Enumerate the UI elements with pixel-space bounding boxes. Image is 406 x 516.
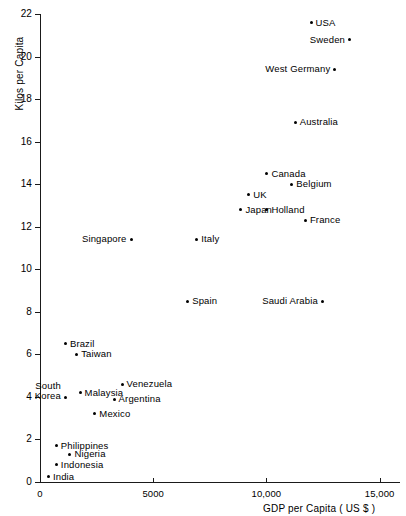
data-point-label: Saudi Arabia [262, 296, 318, 306]
data-point-marker [93, 412, 96, 415]
y-tick-label: 10 [21, 264, 32, 274]
y-tick-mark [35, 312, 40, 313]
data-point-marker [348, 38, 351, 41]
data-point: Canada [265, 169, 305, 179]
y-tick-label: 14 [21, 179, 32, 189]
y-tick-label: 12 [21, 222, 32, 232]
data-point: SouthKorea [0, 381, 67, 401]
data-point-label: Sweden [310, 35, 345, 45]
data-point: Nigeria [68, 449, 105, 459]
y-tick-mark [35, 57, 40, 58]
data-point-label: Brazil [70, 339, 95, 349]
data-point-label: Holland [271, 205, 304, 215]
x-tick-mark [153, 478, 154, 483]
data-point: Italy [195, 234, 219, 244]
data-point: Mexico [93, 409, 130, 419]
data-point: Indonesia [55, 460, 104, 470]
data-point-marker [55, 444, 58, 447]
data-point-marker [239, 208, 242, 211]
data-point-marker [64, 342, 67, 345]
data-point: Singapore [0, 234, 133, 244]
data-point-marker [75, 353, 78, 356]
data-point: West Germany [0, 64, 336, 74]
data-point-marker [290, 183, 293, 186]
data-point-label: West Germany [265, 64, 330, 74]
data-point-marker [310, 21, 313, 24]
x-tick-mark [266, 478, 267, 483]
data-point: India [47, 472, 74, 482]
data-point-marker [265, 172, 268, 175]
data-point: Saudi Arabia [0, 296, 324, 306]
x-tick-mark [40, 478, 41, 483]
data-point-label: Spain [192, 296, 217, 306]
y-tick-mark [35, 354, 40, 355]
data-point-marker [186, 300, 189, 303]
data-point: Argentina [113, 394, 161, 404]
data-point-label: Taiwan [81, 349, 111, 359]
data-point: Spain [186, 296, 217, 306]
data-point-marker [333, 68, 336, 71]
data-point: France [304, 215, 340, 225]
data-point-marker [68, 453, 71, 456]
data-point-label: France [310, 215, 340, 225]
y-tick-label: 2 [26, 434, 32, 444]
data-point-label: Singapore [82, 234, 127, 244]
y-tick-label: 6 [26, 349, 32, 359]
x-tick-label: 15,000 [365, 489, 395, 499]
data-point: Belgium [290, 179, 331, 189]
x-tick-label: 5000 [142, 489, 164, 499]
data-point-marker [195, 238, 198, 241]
data-point-label: Canada [271, 169, 305, 179]
data-point-label: India [53, 472, 74, 482]
data-point: Taiwan [75, 349, 111, 359]
data-point-marker [130, 238, 133, 241]
data-point-label: Italy [201, 234, 219, 244]
data-point: USA [310, 18, 336, 28]
data-point-label: UK [253, 190, 267, 200]
y-tick-mark [35, 142, 40, 143]
y-tick-label: 0 [26, 477, 32, 487]
data-point-label: Mexico [99, 409, 130, 419]
data-point-marker [121, 383, 124, 386]
data-point-marker [265, 208, 268, 211]
x-tick-label: 10,000 [252, 489, 282, 499]
y-tick-mark [35, 184, 40, 185]
data-point-marker [79, 391, 82, 394]
data-point-label: USA [316, 18, 336, 28]
data-point-marker [47, 475, 50, 478]
data-point-label: Belgium [296, 179, 331, 189]
data-point-label: Argentina [119, 394, 161, 404]
data-point-label: Indonesia [61, 460, 104, 470]
y-axis-line [40, 14, 41, 483]
data-point: Sweden [0, 35, 351, 45]
y-tick-mark [35, 439, 40, 440]
x-axis-line [40, 482, 400, 483]
y-tick-label: 16 [21, 137, 32, 147]
data-point-label: Venezuela [127, 379, 173, 389]
data-point-marker [113, 398, 116, 401]
data-point-marker [247, 193, 250, 196]
y-tick-mark [35, 14, 40, 15]
data-point-label: SouthKorea [35, 381, 61, 401]
data-point-marker [55, 463, 58, 466]
data-point: UK [247, 190, 267, 200]
x-tick-label: 0 [37, 489, 42, 499]
data-point-marker [64, 396, 67, 399]
data-point-label: Australia [300, 117, 338, 127]
data-point-marker [294, 121, 297, 124]
data-point: Holland [265, 205, 304, 215]
y-tick-mark [35, 227, 40, 228]
data-point: Venezuela [121, 379, 173, 389]
data-point-label: Nigeria [74, 449, 105, 459]
x-axis-title: GDP per Capita ( US $ ) [263, 503, 375, 514]
data-point: Australia [294, 117, 338, 127]
data-point-marker [321, 300, 324, 303]
y-tick-label: 8 [26, 307, 32, 317]
data-point-marker [304, 219, 307, 222]
y-tick-mark [35, 99, 40, 100]
data-point: Brazil [64, 339, 95, 349]
y-tick-mark [35, 269, 40, 270]
scatter-plot: 0246810121416182022 0500010,00015,000 Ki… [0, 0, 406, 516]
x-tick-mark [380, 478, 381, 483]
